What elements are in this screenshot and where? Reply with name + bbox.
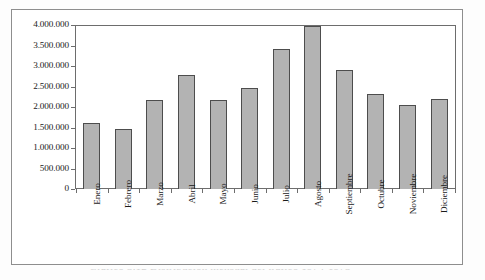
x-axis-tick-mark (329, 189, 330, 193)
x-axis-label-marzo: Marzo (155, 182, 165, 205)
figure-frame: 4.000.0003.500.0003.000.0002.500.0002.00… (11, 9, 463, 265)
bar-slot (202, 26, 234, 189)
figure-caption-text: Gráfico 3.12 Distribución mensual del tr… (89, 269, 351, 272)
bar-mayo (210, 100, 227, 189)
bar-series (76, 26, 455, 189)
x-axis-label-slot: Mayo (202, 194, 234, 262)
x-axis-label-agosto: Agosto (313, 181, 323, 207)
x-axis-label-slot: Noviembre (392, 194, 424, 262)
bar-enero (83, 123, 100, 189)
bar-slot (329, 26, 361, 189)
x-axis-label-septiembre: Septiembre (344, 174, 354, 215)
x-axis-tick-mark (171, 189, 172, 193)
bar-slot (234, 26, 266, 189)
x-axis-label-slot: Enero (76, 194, 108, 262)
bar-slot (108, 26, 140, 189)
bar-slot (171, 26, 203, 189)
y-axis-tick-label: 1.000.000 (33, 142, 69, 152)
figure-caption-clipped: Gráfico 3.12 Distribución mensual del tr… (11, 269, 463, 280)
bar-slot (76, 26, 108, 189)
bar-junio (241, 88, 258, 189)
x-axis-label-julio: Julio (281, 185, 291, 202)
bar-septiembre (336, 70, 353, 189)
x-axis-label-octubre: Octubre (376, 180, 386, 209)
y-axis-tick-label: 0 (65, 183, 70, 193)
y-axis-tick-label: 2.500.000 (33, 81, 69, 91)
x-axis-tick-mark (108, 189, 109, 193)
bar-slot (392, 26, 424, 189)
y-axis-tick-mark (71, 87, 75, 88)
x-axis-tick-mark (360, 189, 361, 193)
x-axis-tick-mark (76, 189, 77, 193)
y-axis-tick-mark (71, 189, 75, 190)
bar-slot (297, 26, 329, 189)
x-axis-tick-mark (455, 189, 456, 193)
x-axis-label-slot: Agosto (297, 194, 329, 262)
x-axis-label-slot: Junio (234, 194, 266, 262)
x-axis-tick-mark (297, 189, 298, 193)
x-axis-tick-mark (202, 189, 203, 193)
x-axis-label-slot: Diciembre (423, 194, 455, 262)
x-axis-label-slot: Marzo (139, 194, 171, 262)
x-axis-tick-mark (423, 189, 424, 193)
x-axis-labels: EneroFebreroMarzoAbrilMayoJunioJulioAgos… (76, 194, 455, 262)
bar-agosto (304, 26, 321, 189)
x-axis-label-slot: Octubre (360, 194, 392, 262)
bar-slot (265, 26, 297, 189)
x-axis-label-slot: Julio (265, 194, 297, 262)
y-axis-tick-mark (71, 169, 75, 170)
bar-octubre (367, 94, 384, 189)
x-axis-tick-mark (139, 189, 140, 193)
bar-julio (273, 49, 290, 189)
y-axis-tick-mark (71, 66, 75, 67)
bar-marzo (146, 100, 163, 189)
bar-abril (178, 75, 195, 189)
x-axis-tick-mark (266, 189, 267, 193)
bar-chart: 4.000.0003.500.0003.000.0002.500.0002.00… (12, 10, 464, 266)
y-axis-tick-label: 4.000.000 (33, 19, 69, 29)
y-axis-tick-mark (71, 107, 75, 108)
y-axis-tick-label: 1.500.000 (33, 122, 69, 132)
y-axis-tick-mark (71, 128, 75, 129)
bar-slot (423, 26, 455, 189)
y-axis-tick-label: 3.500.000 (33, 40, 69, 50)
bar-slot (360, 26, 392, 189)
y-axis-tick-mark (71, 148, 75, 149)
x-axis-tick-mark (234, 189, 235, 193)
x-axis-label-abril: Abril (187, 185, 197, 204)
x-axis-label-enero: Enero (92, 183, 102, 204)
bar-slot (139, 26, 171, 189)
x-axis-label-slot: Septiembre (329, 194, 361, 262)
x-axis-label-mayo: Mayo (218, 183, 228, 204)
x-axis-tick-mark (392, 189, 393, 193)
x-axis-label-noviembre: Noviembre (408, 174, 418, 214)
x-axis-label-febrero: Febrero (123, 180, 133, 208)
x-axis-label-slot: Abril (171, 194, 203, 262)
y-axis-tick-mark (71, 46, 75, 47)
y-axis: 4.000.0003.500.0003.000.0002.500.0002.00… (12, 25, 75, 189)
y-axis-tick-label: 3.000.000 (33, 60, 69, 70)
y-axis-tick-mark (71, 25, 75, 26)
y-axis-tick-label: 2.000.000 (33, 101, 69, 111)
x-axis-label-slot: Febrero (108, 194, 140, 262)
x-axis-label-junio: Junio (250, 184, 260, 203)
y-axis-tick-label: 500.000 (40, 163, 69, 173)
x-axis-label-diciembre: Diciembre (439, 175, 449, 213)
